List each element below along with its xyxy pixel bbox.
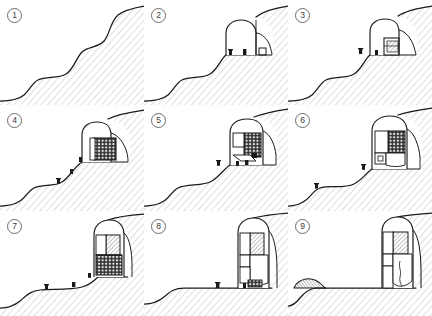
terrain-mass-1 (0, 6, 144, 105)
worker-figure (229, 50, 232, 55)
terrain-mass-2 (144, 6, 288, 105)
structure-upper-floors-5 (233, 133, 261, 161)
equipment-crate (259, 48, 266, 55)
panel-8: 8 (144, 211, 288, 316)
worker-figure (216, 283, 219, 288)
structure-bay (240, 233, 250, 255)
structure-final-9 (383, 232, 412, 288)
structure-rooms-6 (375, 131, 405, 167)
structure-hall (393, 254, 412, 286)
construction-sequence-figure: 1 (0, 0, 432, 316)
structure-infill (387, 41, 398, 52)
panel-4: 4 (0, 105, 144, 210)
structure-fullheight-7 (96, 235, 122, 275)
worker-figure (315, 184, 318, 189)
panel-number-9: 9 (295, 219, 310, 234)
panel-number-2: 2 (151, 8, 166, 23)
structure-infill (393, 232, 408, 254)
structure-infill (250, 233, 264, 255)
panel-9: 9 (288, 211, 432, 316)
structure-base (383, 266, 393, 288)
terrain-mass-4 (0, 110, 144, 210)
panel-number-1: 1 (7, 8, 22, 23)
terrain-mass-5 (144, 109, 288, 210)
structure-bay (96, 235, 106, 255)
panel-1: 1 (0, 0, 144, 105)
structure-room (240, 255, 250, 267)
spoil-heap (294, 278, 326, 287)
spoil-mound-9 (294, 278, 326, 287)
panel-grid: 1 (0, 0, 432, 316)
scaffold-grid-4 (90, 138, 116, 160)
panel-number-3: 3 (295, 8, 310, 23)
scaffold-formwork (248, 280, 262, 287)
worker-figure (217, 161, 220, 166)
worker-figure (88, 273, 91, 278)
worker-figure (45, 285, 48, 290)
terrain-mass-3 (288, 6, 432, 105)
panel-7: 7 (0, 211, 144, 316)
structure-room (375, 153, 386, 164)
scaffold-formwork (94, 138, 116, 160)
worker-figure (70, 169, 73, 174)
panel-5: 5 (144, 105, 288, 210)
panel-2: 2 (144, 0, 288, 105)
structure-core (252, 153, 257, 158)
panel-number-8: 8 (151, 219, 166, 234)
structure-room (383, 254, 393, 266)
panel-6: 6 (288, 105, 432, 210)
terrain-mass-6 (288, 108, 432, 210)
structure-bay (383, 232, 393, 254)
panel-3: 3 (288, 0, 432, 105)
structure-bay (233, 133, 244, 147)
worker-figure (359, 49, 362, 54)
worker-figure (57, 179, 60, 184)
worker-figure (243, 49, 246, 55)
worker-figure (245, 160, 248, 165)
structure-complete-8 (240, 233, 268, 287)
scaffold-formwork (388, 131, 405, 153)
worker-figure (362, 165, 365, 170)
structure-hall (386, 153, 405, 167)
panel-number-7: 7 (7, 219, 22, 234)
scaffold-formwork (96, 255, 122, 275)
structure-infill (106, 235, 120, 255)
worker-figure (243, 283, 246, 288)
structure-shaft (90, 138, 95, 160)
worker-figure (72, 282, 75, 287)
worker-figure (375, 50, 378, 55)
worker-figure (236, 161, 239, 166)
structure-bay (375, 131, 388, 153)
worker-figure (79, 157, 82, 162)
